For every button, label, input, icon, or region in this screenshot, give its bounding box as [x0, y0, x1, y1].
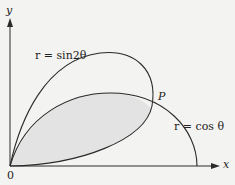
curve-costheta-label: r = cos θ — [174, 120, 224, 133]
curve-sin2theta-label: r = sin2θ — [35, 49, 86, 62]
origin-label: 0 — [7, 169, 14, 182]
polar-diagram: y x 0 r = sin2θ r = cos θ P — [0, 0, 235, 185]
y-axis-label: y — [6, 4, 12, 17]
point-p-label: P — [158, 90, 165, 103]
diagram-canvas — [0, 0, 235, 185]
x-axis-label: x — [223, 158, 229, 171]
x-axis-arrow-icon — [211, 163, 220, 169]
y-axis-arrow-icon — [7, 18, 13, 27]
shaded-region — [10, 93, 152, 166]
